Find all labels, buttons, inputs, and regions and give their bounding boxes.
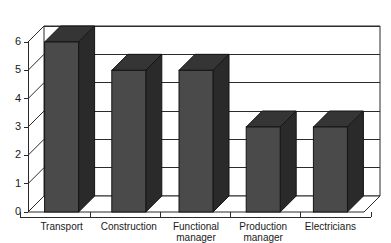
- bar-side-face: [280, 111, 296, 212]
- bar-front-face: [179, 70, 213, 212]
- bar-front-face: [112, 70, 146, 212]
- x-axis: [20, 212, 371, 217]
- bar-side-face: [79, 26, 95, 212]
- depth-connector-4: [28, 83, 44, 99]
- x-category-label: Transport: [40, 221, 83, 232]
- bar-front-face: [313, 127, 347, 212]
- bar-side-face: [213, 54, 229, 212]
- x-category-label: Functional: [173, 221, 219, 232]
- bar-front-face: [45, 42, 79, 212]
- x-category-label: Production: [239, 221, 287, 232]
- depth-connector-2: [28, 139, 44, 155]
- bar-group[interactable]: [179, 54, 229, 212]
- bar-group[interactable]: [246, 111, 296, 212]
- y-tick-label-3: 3: [15, 120, 21, 132]
- bar-front-face: [246, 127, 280, 212]
- x-category-label: manager: [176, 232, 216, 243]
- depth-connector-1: [28, 168, 44, 184]
- x-axis-category-labels: TransportConstructionFunctionalmanagerPr…: [40, 221, 356, 243]
- bar-chart: 6 5 4 3 2 1 0 TransportConstructionFunct…: [0, 0, 391, 243]
- bar-side-face: [146, 54, 162, 212]
- x-category-label: Electricians: [305, 221, 356, 232]
- x-category-label: Construction: [101, 221, 157, 232]
- y-tick-label-5: 5: [15, 63, 21, 75]
- x-category-label: manager: [243, 232, 283, 243]
- y-tick-label-6: 6: [15, 35, 21, 47]
- depth-connector-6: [28, 26, 44, 42]
- chart-canvas: 6 5 4 3 2 1 0 TransportConstructionFunct…: [0, 0, 391, 243]
- depth-connector-5: [28, 54, 44, 70]
- bar-group[interactable]: [112, 54, 162, 212]
- y-axis-ticks: [24, 42, 28, 212]
- y-tick-label-4: 4: [15, 92, 21, 104]
- left-side-wall: [28, 26, 44, 212]
- y-axis-tick-labels: 6 5 4 3 2 1 0: [15, 35, 21, 217]
- depth-connector-3: [28, 111, 44, 127]
- y-tick-label-1: 1: [15, 177, 21, 189]
- bar-side-face: [347, 111, 363, 212]
- bar-group[interactable]: [313, 111, 363, 212]
- y-tick-label-2: 2: [15, 148, 21, 160]
- bar-group[interactable]: [45, 26, 95, 212]
